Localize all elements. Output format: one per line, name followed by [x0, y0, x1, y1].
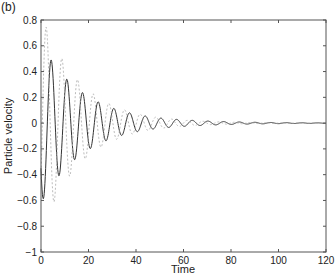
plot-area [41, 27, 326, 202]
y-tick-label: −1 [26, 247, 38, 258]
y-tick-label: 0.4 [23, 66, 37, 77]
y-tick-label: −0.8 [17, 221, 37, 232]
y-axis: −1−0.8−0.6−0.4−0.200.20.40.60.8 [17, 15, 326, 258]
y-tick-label: 0.2 [23, 92, 37, 103]
y-axis-label: Particle velocity [2, 97, 14, 174]
line-chart: 020406080100120 −1−0.8−0.6−0.4−0.200.20.… [0, 0, 336, 275]
y-tick-label: 0.8 [23, 15, 37, 26]
y-tick-label: 0 [31, 118, 37, 129]
x-axis: 020406080100120 [38, 20, 335, 266]
y-tick-label: 0.6 [23, 40, 37, 51]
axes-frame [41, 20, 326, 252]
x-tick-label: 80 [225, 255, 237, 266]
x-tick-label: 20 [83, 255, 95, 266]
x-axis-label: Time [171, 263, 195, 275]
solid-series-line [41, 60, 326, 199]
x-tick-label: 0 [38, 255, 44, 266]
y-tick-label: −0.6 [17, 195, 37, 206]
x-tick-label: 100 [270, 255, 287, 266]
x-tick-label: 120 [318, 255, 335, 266]
x-tick-label: 40 [130, 255, 142, 266]
y-tick-label: −0.4 [17, 169, 37, 180]
y-tick-label: −0.2 [17, 143, 37, 154]
dashed-series-line [41, 27, 326, 202]
